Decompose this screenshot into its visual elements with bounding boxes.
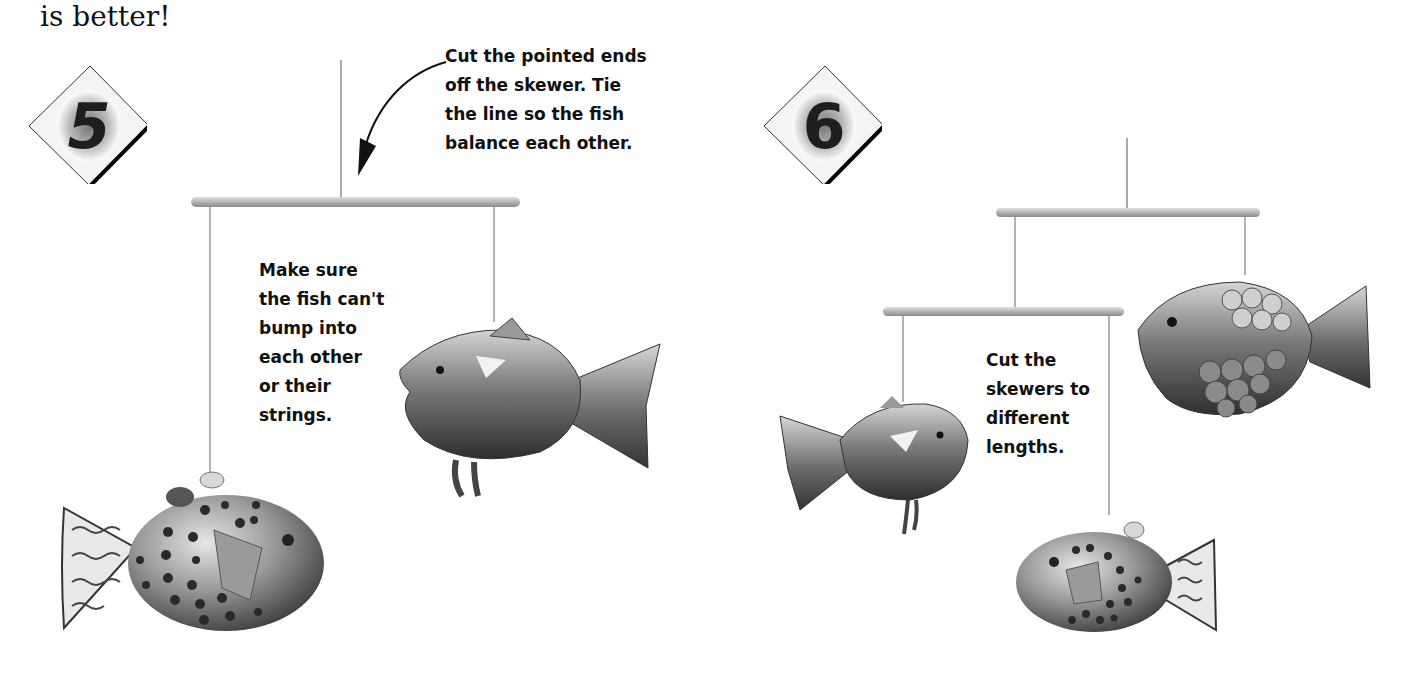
scaled-fish	[1138, 282, 1370, 417]
spotted-fish-left	[62, 472, 324, 631]
caption-cut-ends: Cut the pointed ends off the skewer. Tie…	[445, 42, 647, 158]
shiny-fish-small	[780, 396, 968, 534]
arrow-head-icon	[358, 138, 376, 176]
caption-make-sure: Make sure the fish can't bump into each …	[259, 256, 384, 430]
caption-skewer-lengths: Cut the skewers to different lengths.	[986, 346, 1090, 462]
mobile-illustration	[0, 0, 1401, 678]
lower-skewer	[883, 307, 1124, 316]
shiny-fish-right	[400, 318, 660, 496]
spotted-fish-bottom	[1016, 522, 1216, 632]
skewer	[191, 197, 520, 207]
upper-skewer	[996, 208, 1260, 217]
curved-arrow	[366, 62, 446, 144]
